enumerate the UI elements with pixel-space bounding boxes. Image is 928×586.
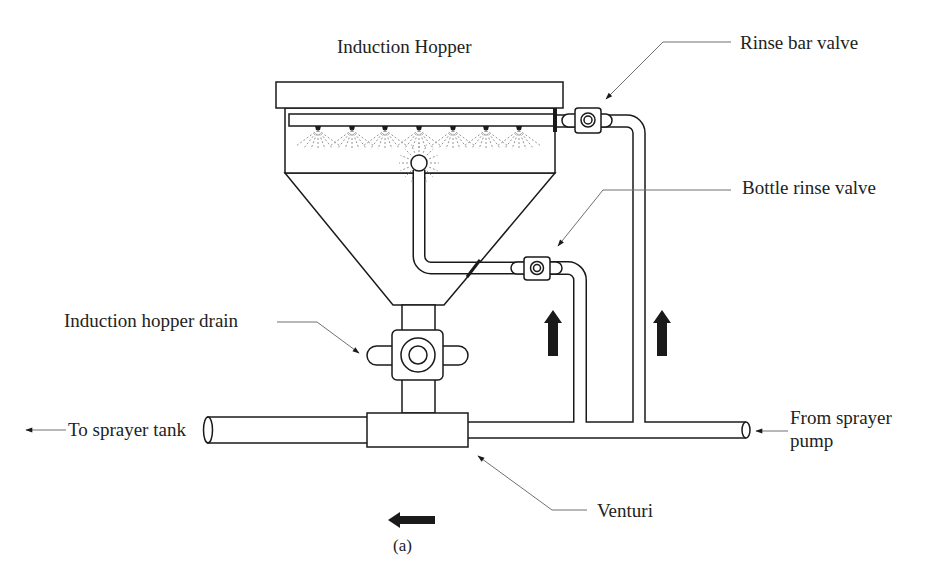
induction-hopper-diagram: Induction Hopper Rinse bar valve Bottle … [0, 0, 928, 586]
rinse-bar-valve [562, 108, 612, 133]
rinse-bar-flow-up-arrow-icon [653, 310, 671, 356]
to-sprayer-tank-label: To sprayer tank [68, 419, 186, 440]
rinse-bar-valve-leader [606, 42, 731, 99]
bottle-rinse-valve-label: Bottle rinse valve [742, 177, 876, 198]
bottle-rinse-flow-up-arrow-icon [544, 310, 562, 356]
main-line-flow-left-arrow-icon [388, 512, 435, 528]
drain-leader [277, 322, 359, 353]
rinse-bar-fitting [553, 108, 557, 132]
diagram-title: Induction Hopper [337, 36, 472, 57]
hopper-lid [276, 82, 563, 108]
venturi-label: Venturi [597, 500, 653, 521]
induction-hopper-drain-valve [367, 330, 468, 380]
venturi-body [367, 413, 468, 447]
venturi-leader [478, 456, 587, 510]
tank-line-end [204, 417, 213, 443]
figure-caption: (a) [393, 536, 412, 555]
from-sprayer-pump-label-line1: From sprayer [790, 407, 893, 428]
rinse-bar [289, 114, 555, 126]
rinse-bar-valve-label: Rinse bar valve [740, 32, 858, 53]
pump-line-end [742, 422, 750, 438]
bottle-rinse-valve [511, 257, 562, 280]
induction-hopper-drain-label: Induction hopper drain [64, 310, 239, 331]
bottle-rinse-nozzle [411, 155, 427, 171]
from-sprayer-pump-label-line2: pump [790, 430, 833, 451]
